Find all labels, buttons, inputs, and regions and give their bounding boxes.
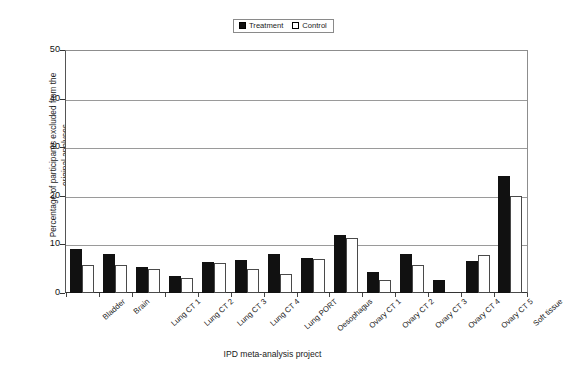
bar-control xyxy=(280,274,292,293)
x-axis-title: IPD meta-analysis project xyxy=(0,349,545,359)
x-category-label: Ovary CT 2 xyxy=(401,297,437,330)
legend-label-treatment: Treatment xyxy=(249,22,283,30)
x-category-label: Lung CT 3 xyxy=(235,297,268,328)
bar-group xyxy=(132,50,165,293)
bar-treatment xyxy=(70,249,82,293)
x-category-label: Ovary CT 4 xyxy=(466,297,502,330)
bar-treatment xyxy=(334,235,346,293)
bar-control xyxy=(412,265,424,293)
bar-group xyxy=(494,50,527,293)
bar-treatment xyxy=(235,260,247,293)
bar-group xyxy=(66,50,99,293)
bar-control xyxy=(510,196,522,293)
bar-group xyxy=(461,50,494,293)
y-tick-label-0: 0 xyxy=(0,287,65,297)
bar-control xyxy=(379,280,391,293)
x-category-label: Lung CT 1 xyxy=(169,297,202,328)
chart-legend: Treatment Control xyxy=(233,19,334,33)
x-category-label: Ovary CT 5 xyxy=(499,297,535,330)
bar-treatment xyxy=(400,254,412,293)
bar-group xyxy=(165,50,198,293)
y-tick-mark-0 xyxy=(60,293,65,294)
x-category-label: Brain xyxy=(132,297,152,316)
legend-entry-treatment: Treatment xyxy=(239,22,283,30)
bar-treatment xyxy=(136,267,148,293)
bar-treatment xyxy=(301,258,313,293)
bar-control xyxy=(115,265,127,293)
x-category-label: Lung CT 2 xyxy=(202,297,235,328)
bar-group xyxy=(362,50,395,293)
bar-treatment xyxy=(498,176,510,293)
x-category-label: Oesophagus xyxy=(336,297,375,333)
bar-group xyxy=(296,50,329,293)
x-category-label: Ovary CT 3 xyxy=(433,297,469,330)
bar-group xyxy=(99,50,132,293)
bar-group xyxy=(329,50,362,293)
bar-group xyxy=(428,50,461,293)
bar-control xyxy=(181,278,193,293)
x-category-label: Lung CT 4 xyxy=(268,297,301,328)
bar-treatment xyxy=(367,272,379,293)
bar-groups xyxy=(66,50,527,293)
bar-treatment xyxy=(169,276,181,293)
bar-group xyxy=(198,50,231,293)
bar-control xyxy=(346,238,358,293)
bar-treatment xyxy=(268,254,280,293)
bar-group xyxy=(395,50,428,293)
bar-group xyxy=(231,50,264,293)
bar-treatment xyxy=(202,262,214,293)
x-axis-category-labels: BladderBrainLung CT 1Lung CT 2Lung CT 3L… xyxy=(66,297,527,345)
bar-group xyxy=(264,50,297,293)
x-category-label: Bladder xyxy=(101,297,127,322)
filled-square-icon xyxy=(239,22,246,29)
bar-treatment xyxy=(433,280,445,293)
bar-treatment xyxy=(466,261,478,293)
legend-entry-control: Control xyxy=(292,22,326,30)
bar-control xyxy=(247,269,259,293)
legend-label-control: Control xyxy=(302,22,326,30)
bar-control xyxy=(82,265,94,293)
x-category-label: Soft tissue xyxy=(531,297,564,328)
bar-control xyxy=(478,255,490,293)
bar-control xyxy=(214,263,226,293)
bar-control xyxy=(313,259,325,293)
hollow-square-icon xyxy=(292,22,299,29)
bar-control xyxy=(148,269,160,293)
x-category-label: Lung PORT xyxy=(302,297,339,331)
bar-treatment xyxy=(103,254,115,293)
